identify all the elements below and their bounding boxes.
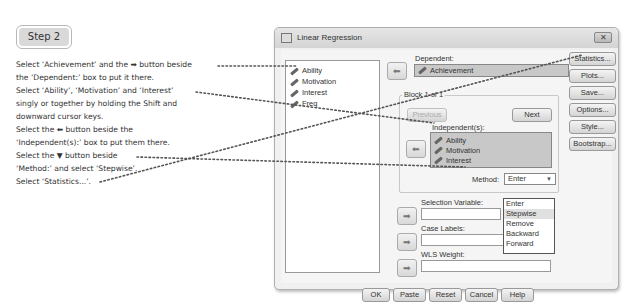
- variable-item-motivation[interactable]: Motivation: [286, 76, 379, 87]
- selection-variable-label: Selection Variable:: [421, 198, 483, 207]
- step-label: Step 2: [19, 28, 69, 46]
- wls-weight-label: WLS Weight:: [421, 250, 465, 259]
- independent-item-ability[interactable]: Ability: [431, 135, 551, 145]
- plots-button[interactable]: Plots...: [569, 69, 616, 83]
- reset-button[interactable]: Reset: [429, 288, 462, 302]
- bootstrap-button[interactable]: Bootstrap...: [569, 137, 616, 151]
- options-button[interactable]: Options...: [569, 103, 616, 117]
- scale-variable-icon: [434, 136, 443, 144]
- method-label: Method:: [472, 175, 499, 184]
- method-option-backward[interactable]: Backward: [504, 229, 554, 239]
- independents-list[interactable]: Ability Motivation Interest: [430, 132, 552, 168]
- dependent-move-button[interactable]: ⬅: [387, 62, 407, 80]
- variable-item-interest[interactable]: Interest: [286, 87, 379, 98]
- scale-variable-icon: [290, 67, 299, 75]
- instruction-line: Select the ▼ button beside: [16, 149, 236, 162]
- instruction-line: Select ‘Ability’, ‘Motivation’ and ‘Inte…: [16, 84, 236, 97]
- previous-button[interactable]: Previous: [407, 108, 447, 122]
- dependent-field[interactable]: Achievement: [414, 64, 569, 77]
- regression-icon: [281, 33, 292, 43]
- dialog-title: Linear Regression: [297, 33, 362, 42]
- style-button[interactable]: Style...: [569, 120, 616, 134]
- method-dropdown[interactable]: Enter Stepwise Remove Backward Forward: [503, 198, 555, 254]
- dialog-content: Ability Motivation Interest Freq ⬅ Depen…: [281, 50, 612, 283]
- independent-item-interest[interactable]: Interest: [431, 155, 551, 165]
- variable-item-ability[interactable]: Ability: [286, 65, 379, 76]
- next-button[interactable]: Next: [512, 108, 552, 122]
- wls-weight-move-button[interactable]: ➡: [397, 259, 417, 277]
- statistics-button[interactable]: Statistics...: [569, 52, 616, 66]
- independents-move-button[interactable]: ⬅: [406, 140, 426, 158]
- wls-weight-field[interactable]: [421, 260, 551, 272]
- case-labels-move-button[interactable]: ➡: [397, 233, 417, 251]
- method-option-stepwise[interactable]: Stepwise: [504, 209, 554, 219]
- method-option-forward[interactable]: Forward: [504, 239, 554, 249]
- scale-variable-icon: [434, 156, 443, 164]
- help-button[interactable]: Help: [501, 288, 534, 302]
- instruction-line: singly or together by holding the Shift …: [16, 97, 236, 110]
- dependent-label: Dependent:: [415, 54, 454, 63]
- chevron-down-icon[interactable]: ▼: [546, 174, 552, 184]
- method-select[interactable]: Enter ▼: [504, 173, 556, 185]
- scale-variable-icon: [434, 146, 443, 154]
- linear-regression-dialog: Linear Regression ✕ Ability Motivation I…: [274, 27, 619, 290]
- variable-list[interactable]: Ability Motivation Interest Freq: [285, 60, 380, 273]
- independents-label: Independent(s):: [432, 123, 485, 132]
- ok-button[interactable]: OK: [362, 288, 390, 302]
- cancel-button[interactable]: Cancel: [465, 288, 498, 302]
- block-group: Block 1 of 1 Previous Next Independent(s…: [399, 95, 559, 193]
- independent-item-motivation[interactable]: Motivation: [431, 145, 551, 155]
- instruction-line: the ‘Dependent:’ box to put it there.: [16, 71, 236, 84]
- save-button[interactable]: Save...: [569, 86, 616, 100]
- title-bar[interactable]: Linear Regression ✕: [275, 28, 618, 48]
- instruction-line: ‘Independent(s):’ box to put them there.: [16, 136, 236, 149]
- case-labels-label: Case Labels:: [421, 224, 465, 233]
- block-label: Block 1 of 1: [402, 90, 445, 99]
- selection-variable-field[interactable]: [421, 208, 501, 220]
- scale-variable-icon: [418, 66, 427, 74]
- instruction-line: Select ‘Statistics...’.: [16, 175, 236, 188]
- selection-variable-move-button[interactable]: ➡: [397, 207, 417, 225]
- instruction-line: ‘Method:’ and select ‘Stepwise’.: [16, 162, 236, 175]
- instructions: Select ‘Achievement’ and the ➡ button be…: [16, 58, 236, 188]
- method-option-remove[interactable]: Remove: [504, 219, 554, 229]
- scale-variable-icon: [290, 100, 299, 108]
- instruction-line: Select the ⬅ button beside the: [16, 123, 236, 136]
- step-badge: Step 2: [16, 25, 72, 49]
- method-option-enter[interactable]: Enter: [504, 199, 554, 209]
- variable-item-freq[interactable]: Freq: [286, 98, 379, 109]
- scale-variable-icon: [290, 89, 299, 97]
- instruction-line: Select ‘Achievement’ and the ➡ button be…: [16, 58, 236, 71]
- close-button[interactable]: ✕: [594, 32, 612, 43]
- instruction-line: downward cursor keys.: [16, 110, 236, 123]
- paste-button[interactable]: Paste: [393, 288, 426, 302]
- scale-variable-icon: [290, 78, 299, 86]
